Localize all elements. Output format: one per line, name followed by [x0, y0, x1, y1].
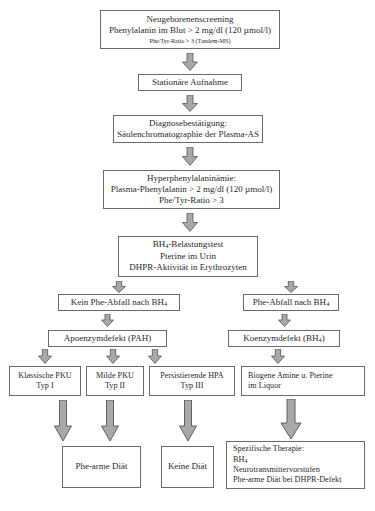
arrow-biogenic-amines-to-specific-therapy: [280, 399, 302, 440]
screening-line-1: Neugeborenenscreening: [147, 14, 234, 25]
node-biogenic-amines: Biogene Amine u. Pterine im Liquor: [241, 366, 365, 396]
node-no-diet: Keine Diät: [161, 446, 214, 488]
persistent-hpa-line-1: Persistierende HPA: [160, 371, 224, 381]
arrow-apoenzyme-to-mild-pku: [106, 349, 120, 364]
specific-therapy-line-3: Neurotransmittervorstufen: [233, 465, 320, 475]
arrow-phe-drop-to-coenzyme: [278, 314, 291, 327]
biogenic-amines-line-2: im Liquor: [248, 381, 281, 391]
node-apoenzyme-defect: Apoenzymdefekt (PAH): [48, 330, 167, 347]
biogenic-amines-line-1: Biogene Amine u. Pterine: [248, 371, 333, 381]
node-no-phe-drop: Kein Phe-Abfall nach BH4: [58, 294, 180, 311]
node-classic-pku: Klassische PKU Typ I: [9, 366, 81, 396]
arrow-bh4-test-to-phe-drop: [284, 281, 298, 293]
screening-line-2: Phenylalanin im Blut > 2 mg/dl (120 µmol…: [109, 25, 271, 36]
arrow-apoenzyme-to-classic-pku: [38, 349, 52, 364]
classic-pku-line-1: Klassische PKU: [18, 371, 71, 381]
persistent-hpa-line-2: Typ III: [181, 381, 204, 391]
specific-therapy-line-1: Spezifische Therapie:: [233, 444, 304, 454]
no-diet-label: Keine Diät: [168, 461, 207, 472]
apoenzyme-label: Apoenzymdefekt (PAH): [64, 333, 151, 344]
arrow-bh4-test-to-no-phe-drop: [112, 281, 126, 293]
arrow-hpa-to-bh4-test: [182, 213, 198, 232]
node-specific-therapy: Spezifische Therapie: BH4 Neurotransmitt…: [226, 441, 365, 489]
flowchart-canvas: Neugeborenenscreening Phenylalanin im Bl…: [0, 0, 375, 511]
bh4-test-line-3: DHPR-Aktivität in Erythrozyten: [129, 262, 246, 273]
classic-pku-line-2: Typ I: [36, 381, 53, 391]
arrow-classic-pku-to-low-phe-diet: [54, 400, 72, 442]
confirmation-line-2: Säulenchromatographie der Plasma-AS: [117, 129, 259, 140]
node-phe-drop: Phe-Abfall nach BH4: [243, 294, 339, 311]
arrow-confirmation-to-hpa: [182, 147, 198, 166]
node-hyperphenylalaninemia: Hyperphenylalaninämie: Plasma-Phenylalan…: [103, 170, 280, 209]
phe-drop-label: Phe-Abfall nach BH4: [253, 297, 330, 309]
arrow-mild-pku-to-low-phe-diet: [101, 400, 119, 442]
hpa-line-1: Hyperphenylalaninämie:: [147, 173, 236, 184]
arrow-persistent-hpa-to-no-diet: [179, 400, 197, 442]
mild-pku-line-1: Milde PKU: [96, 371, 134, 381]
hpa-line-3: Phe/Tyr-Ratio > 3: [159, 195, 224, 206]
mild-pku-line-2: Typ II: [105, 381, 125, 391]
coenzyme-label: Koenzymdefekt (BH4): [243, 333, 324, 345]
hpa-line-2: Plasma-Phenylalanin > 2 mg/dl (120 µmol/…: [111, 184, 273, 195]
node-mild-pku: Milde PKU Typ II: [86, 366, 144, 396]
node-newborn-screening: Neugeborenenscreening Phenylalanin im Bl…: [100, 10, 280, 49]
arrow-screening-to-admission: [182, 53, 198, 71]
node-coenzyme-defect: Koenzymdefekt (BH4): [228, 330, 340, 347]
arrow-apoenzyme-to-persistent-hpa: [148, 349, 162, 364]
node-persistent-hpa: Persistierende HPA Typ III: [149, 366, 235, 396]
bh4-test-line-1: BH4-Belastungstest: [153, 239, 224, 251]
low-phe-diet-label: Phe-arme Diät: [75, 461, 127, 472]
arrow-coenzyme-to-biogenic-amines: [271, 349, 285, 364]
node-inpatient-admission: Stationäre Aufnahme: [138, 74, 242, 91]
node-diagnosis-confirmation: Diagnosebestätigung: Säulenchromatograph…: [113, 115, 263, 143]
bh4-test-line-2: Pterine im Urin: [160, 251, 216, 262]
no-phe-drop-label: Kein Phe-Abfall nach BH4: [71, 297, 167, 309]
screening-line-3: Phe/Tyr-Ratio > 3 (Tandem-MS): [149, 37, 230, 45]
specific-therapy-line-2: BH4: [233, 455, 247, 466]
node-low-phe-diet: Phe-arme Diät: [62, 446, 141, 488]
admission-line-1: Stationäre Aufnahme: [152, 77, 228, 88]
arrow-no-phe-drop-to-apoenzyme: [101, 314, 114, 327]
node-bh4-loading-test: BH4-Belastungstest Pterine im Urin DHPR-…: [118, 236, 258, 277]
specific-therapy-line-4: Phe-arme Diät bei DHPR-Defekt: [233, 475, 341, 485]
confirmation-line-1: Diagnosebestätigung:: [149, 118, 227, 129]
arrow-admission-to-confirmation: [182, 95, 198, 112]
